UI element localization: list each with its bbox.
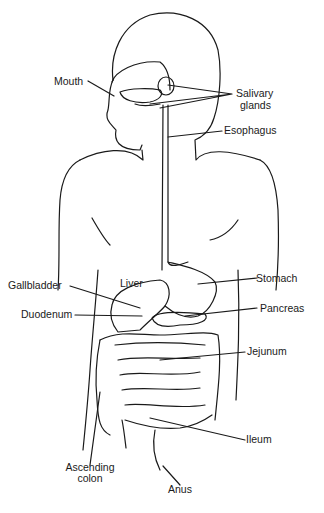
label-mouth: Mouth: [54, 76, 83, 87]
label-pancreas: Pancreas: [260, 303, 304, 314]
label-esophagus: Esophagus: [224, 125, 277, 136]
label-stomach: Stomach: [256, 273, 297, 284]
label-jejunum: Jejunum: [247, 346, 287, 357]
label-duodenum: Duodenum: [21, 309, 72, 320]
label-liver: Liver: [120, 278, 143, 289]
body-outline-drawing: [0, 0, 324, 513]
label-salivary-1: Salivary: [236, 88, 273, 99]
label-salivary-2: glands: [240, 100, 271, 111]
label-ileum: Ileum: [246, 434, 272, 445]
label-anus: Anus: [168, 484, 192, 495]
digestive-system-diagram: Mouth Salivary glands Esophagus Liver St…: [0, 0, 324, 513]
label-ascending-2: colon: [60, 473, 120, 484]
label-gallbladder: Gallbladder: [8, 280, 62, 291]
